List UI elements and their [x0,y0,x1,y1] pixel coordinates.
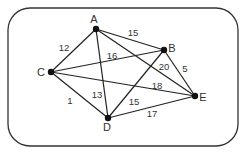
node-c [48,69,54,75]
node-label-b: B [168,42,175,54]
edge-weight-a-e: 20 [159,61,170,72]
edge-b-e [164,50,195,96]
node-label-e: E [199,91,206,103]
edge-c-e [51,72,195,96]
edge-weight-b-d: 15 [129,96,140,107]
node-label-c: C [37,66,45,78]
node-a [93,26,99,32]
edge-weight-c-d: 1 [67,95,72,106]
node-b [161,47,167,53]
node-label-a: A [90,13,98,25]
edge-weight-d-e: 17 [147,108,158,119]
edge-weight-b-e: 5 [182,63,187,74]
node-e [192,93,198,99]
edge-a-e [96,29,195,96]
edge-a-d [96,29,108,118]
edge-weight-a-b: 15 [128,27,139,38]
node-label-d: D [103,121,111,133]
edge-weight-a-d: 13 [92,89,103,100]
edge-labels-group: 151213201618115517 [59,27,188,119]
edge-weight-a-c: 12 [59,42,70,53]
edge-weight-c-b: 16 [107,50,118,61]
graph-diagram: 151213201618115517 ABCDE [0,0,246,154]
edge-weight-c-e: 18 [152,80,163,91]
graph-svg: 151213201618115517 ABCDE [0,0,246,154]
